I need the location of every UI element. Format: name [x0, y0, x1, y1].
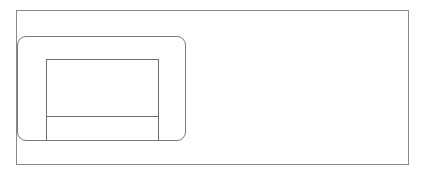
- inner-box: [46, 59, 159, 141]
- inner-box-divider: [46, 116, 159, 117]
